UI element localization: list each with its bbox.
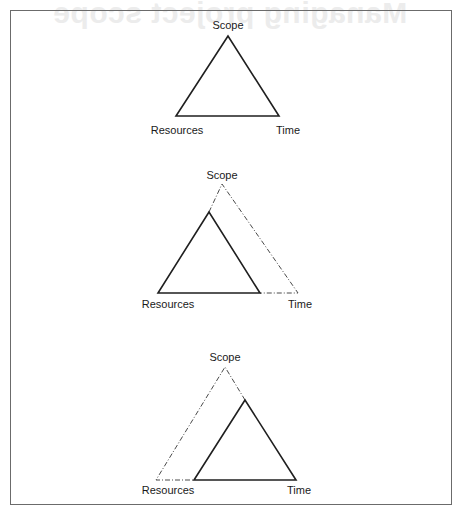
triangle-diagram-resources-extended: Scope Resources Time	[142, 351, 311, 496]
label-resources: Resources	[151, 124, 204, 136]
solid-triangle	[158, 212, 260, 293]
label-time: Time	[288, 298, 312, 310]
scope-triangle-diagrams: Scope Resources Time Scope Resources Tim…	[0, 0, 460, 517]
label-time: Time	[287, 484, 311, 496]
label-resources: Resources	[142, 484, 195, 496]
label-scope: Scope	[209, 351, 240, 363]
dashed-outline	[209, 184, 298, 293]
triangle-diagram-baseline: Scope Resources Time	[151, 19, 300, 136]
solid-triangle	[194, 400, 296, 480]
label-scope: Scope	[206, 169, 237, 181]
label-scope: Scope	[212, 19, 243, 31]
triangle-diagram-time-extended: Scope Resources Time	[142, 169, 312, 310]
label-resources: Resources	[142, 298, 195, 310]
dashed-outline	[156, 367, 245, 480]
label-time: Time	[276, 124, 300, 136]
solid-triangle	[176, 36, 279, 116]
